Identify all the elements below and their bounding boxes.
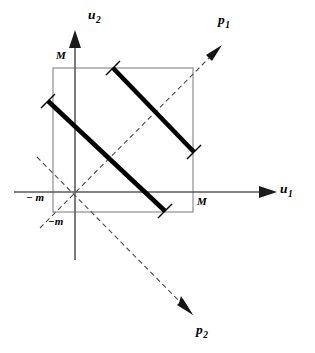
p1-axis-ray [40, 45, 222, 228]
p2-arrowhead-fill [177, 299, 193, 315]
diagram-canvas [0, 0, 315, 353]
u2-axis [69, 30, 81, 260]
axis-label-u2: u2 [88, 8, 100, 22]
lower-thick-segment [41, 94, 172, 218]
tick-label-M-u1: M [197, 196, 207, 207]
tick-label-negm-u1: − m [26, 192, 44, 203]
upper-thick-segment [106, 61, 201, 159]
figure-root: u2 u1 p1 p2 M M − m −m [0, 0, 315, 353]
tick-label-M-u2: M [56, 50, 66, 61]
u2-axis-arrowhead [69, 30, 81, 48]
u1-axis-arrowhead [259, 186, 277, 198]
tick-label-negm-u2: −m [48, 216, 63, 227]
axis-label-p1: p1 [218, 13, 230, 27]
p2-axis-ray [37, 157, 193, 315]
axis-label-u1: u1 [280, 182, 292, 196]
constraint-square [53, 68, 193, 212]
axis-label-p2: p2 [196, 323, 208, 337]
